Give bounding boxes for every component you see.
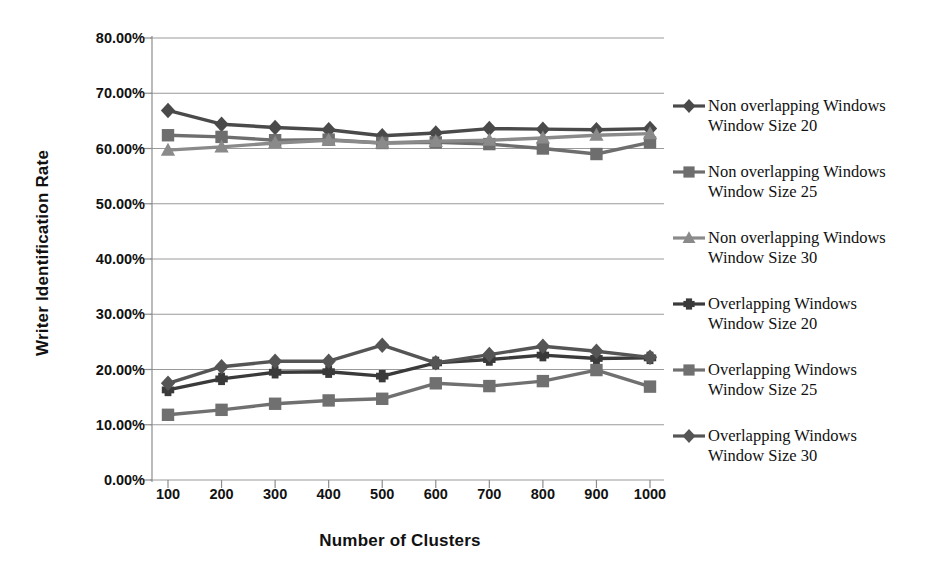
diamond-marker-icon xyxy=(672,428,706,444)
triangle-marker-icon xyxy=(672,230,706,246)
legend-label: Non overlapping Windows Window Size 20 xyxy=(708,96,886,135)
x-tick-label: 400 xyxy=(299,486,359,502)
x-axis-title: Number of Clusters xyxy=(150,531,650,551)
y-axis-title: Writer Identification Rate xyxy=(33,43,53,463)
y-tick-label: 80.00% xyxy=(55,30,145,46)
series-line xyxy=(168,110,650,135)
data-point-marker xyxy=(214,359,228,375)
square-marker-icon xyxy=(672,164,706,180)
y-tick-label: 50.00% xyxy=(55,196,145,212)
data-point-marker xyxy=(683,298,694,309)
data-point-marker xyxy=(215,404,227,416)
y-tick-label: 20.00% xyxy=(55,362,145,378)
legend-label: Overlapping Windows Window Size 20 xyxy=(708,294,857,333)
y-tick-label: 70.00% xyxy=(55,85,145,101)
axis-lines-group xyxy=(144,36,152,482)
legend-label: Overlapping Windows Window Size 30 xyxy=(708,426,857,465)
data-point-marker xyxy=(376,393,388,405)
legend-item[interactable]: Non overlapping Windows Window Size 30 xyxy=(672,228,940,272)
chart-root: 0.00%10.00%20.00%30.00%40.00%50.00%60.00… xyxy=(0,0,940,582)
data-point-marker xyxy=(683,99,696,113)
data-point-marker xyxy=(322,353,336,369)
cross-marker-icon xyxy=(672,296,706,312)
data-point-marker xyxy=(162,129,174,141)
data-point-marker xyxy=(537,142,549,154)
data-point-marker xyxy=(643,350,657,366)
x-tick-label: 500 xyxy=(352,486,412,502)
square-marker-icon xyxy=(672,362,706,378)
data-point-marker xyxy=(322,394,334,406)
data-point-marker xyxy=(375,337,389,353)
data-point-marker xyxy=(683,364,694,375)
data-point-marker xyxy=(644,380,656,392)
data-point-marker xyxy=(215,373,227,385)
x-tick-label: 800 xyxy=(513,486,573,502)
x-tick-label: 700 xyxy=(459,486,519,502)
legend-item[interactable]: Non overlapping Windows Window Size 25 xyxy=(672,162,940,206)
data-point-marker xyxy=(268,120,282,136)
y-tick-label: 0.00% xyxy=(55,472,145,488)
chart-legend: Non overlapping Windows Window Size 20No… xyxy=(672,96,940,492)
series-6 xyxy=(161,337,657,391)
y-tick-label: 60.00% xyxy=(55,141,145,157)
legend-label: Non overlapping Windows Window Size 25 xyxy=(708,162,886,201)
data-point-marker xyxy=(536,339,550,355)
data-point-marker xyxy=(161,103,175,119)
diamond-marker-icon xyxy=(672,98,706,114)
data-point-marker xyxy=(537,375,549,387)
y-tick-label: 40.00% xyxy=(55,251,145,267)
x-tick-label: 600 xyxy=(406,486,466,502)
data-point-marker xyxy=(683,429,696,443)
y-tick-label: 10.00% xyxy=(55,417,145,433)
x-tick-label: 1000 xyxy=(620,486,680,502)
data-point-marker xyxy=(269,398,281,410)
legend-item[interactable]: Overlapping Windows Window Size 30 xyxy=(672,426,940,470)
data-point-marker xyxy=(214,116,228,132)
data-point-marker xyxy=(590,364,602,376)
legend-label: Overlapping Windows Window Size 25 xyxy=(708,360,857,399)
data-point-marker xyxy=(683,166,694,177)
x-tick-label: 300 xyxy=(245,486,305,502)
legend-item[interactable]: Overlapping Windows Window Size 20 xyxy=(672,294,940,338)
x-tick-label: 200 xyxy=(192,486,252,502)
data-point-marker xyxy=(590,148,602,160)
y-axis-tick-labels: 0.00%10.00%20.00%30.00%40.00%50.00%60.00… xyxy=(55,0,145,582)
plot-area-wrapper: 0.00%10.00%20.00%30.00%40.00%50.00%60.00… xyxy=(0,0,670,582)
x-tick-label: 900 xyxy=(566,486,626,502)
data-point-marker xyxy=(162,409,174,421)
series-group xyxy=(161,103,657,421)
data-point-marker xyxy=(483,380,495,392)
legend-item[interactable]: Overlapping Windows Window Size 25 xyxy=(672,360,940,404)
y-tick-label: 30.00% xyxy=(55,306,145,322)
data-point-marker xyxy=(430,377,442,389)
data-point-marker xyxy=(376,370,388,382)
series-5 xyxy=(162,364,656,421)
x-tick-label: 100 xyxy=(138,486,198,502)
data-point-marker xyxy=(268,353,282,369)
data-point-marker xyxy=(429,355,443,371)
legend-item[interactable]: Non overlapping Windows Window Size 20 xyxy=(672,96,940,140)
legend-label: Non overlapping Windows Window Size 30 xyxy=(708,228,886,267)
